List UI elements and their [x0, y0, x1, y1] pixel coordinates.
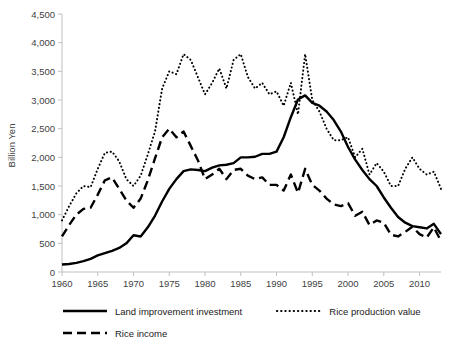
- y-axis-title: Billion Yen: [7, 123, 18, 167]
- svg-text:1980: 1980: [194, 278, 215, 289]
- chart-container: Billion Yen 05001,0001,5002,0002,5003,00…: [0, 0, 451, 352]
- legend-label-0: Land improvement investment: [115, 306, 242, 317]
- svg-text:1965: 1965: [87, 278, 108, 289]
- svg-text:1,000: 1,000: [31, 209, 55, 220]
- svg-text:1970: 1970: [123, 278, 144, 289]
- data-series-group: [62, 54, 441, 264]
- legend-label-1: Rice production value: [329, 306, 420, 317]
- svg-text:1990: 1990: [266, 278, 287, 289]
- x-axis-ticks: 1960196519701975198019851990199520002005…: [51, 272, 430, 289]
- svg-text:1960: 1960: [51, 278, 72, 289]
- legend-row-2: Rice income: [62, 322, 442, 344]
- legend-item-rice-production-value: Rice production value: [276, 306, 420, 317]
- series-line-0: [62, 95, 441, 264]
- series-line-1: [62, 54, 441, 220]
- svg-text:3,000: 3,000: [31, 95, 55, 106]
- legend-item-rice-income: Rice income: [62, 328, 167, 339]
- chart-legend: Land improvement investment Rice product…: [62, 300, 442, 344]
- legend-swatch-dashed: [62, 328, 108, 338]
- legend-swatch-solid: [62, 306, 108, 316]
- legend-swatch-dotted: [276, 306, 322, 316]
- y-axis-title-wrap: Billion Yen: [2, 0, 22, 290]
- chart-svg: 05001,0001,5002,0002,5003,0003,5004,0004…: [0, 0, 451, 300]
- svg-text:1,500: 1,500: [31, 181, 55, 192]
- svg-text:2010: 2010: [409, 278, 430, 289]
- svg-text:1995: 1995: [302, 278, 323, 289]
- svg-text:4,500: 4,500: [31, 9, 55, 20]
- legend-label-2: Rice income: [115, 328, 167, 339]
- svg-text:2,500: 2,500: [31, 123, 55, 134]
- y-axis-ticks: 05001,0001,5002,0002,5003,0003,5004,0004…: [31, 9, 62, 278]
- svg-text:500: 500: [39, 238, 55, 249]
- svg-text:1975: 1975: [159, 278, 180, 289]
- svg-text:4,000: 4,000: [31, 37, 55, 48]
- svg-text:0: 0: [50, 267, 55, 278]
- svg-text:2005: 2005: [373, 278, 394, 289]
- legend-item-land-improvement-investment: Land improvement investment: [62, 306, 242, 317]
- svg-text:2,000: 2,000: [31, 152, 55, 163]
- svg-text:2000: 2000: [337, 278, 358, 289]
- series-line-2: [62, 129, 441, 241]
- svg-text:3,500: 3,500: [31, 66, 55, 77]
- svg-text:1985: 1985: [230, 278, 251, 289]
- legend-row-1: Land improvement investment Rice product…: [62, 300, 442, 322]
